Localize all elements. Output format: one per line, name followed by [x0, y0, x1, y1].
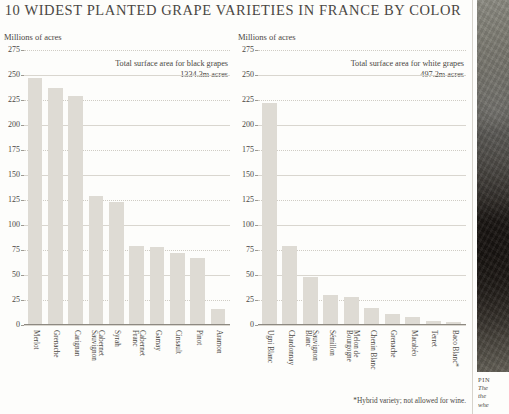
x-label-slot: SauvignonBlanc — [300, 328, 321, 392]
x-axis-labels-black: MerlotGrenacheCarignanCabernetSauvignonS… — [25, 328, 228, 392]
y-axis-tick — [21, 275, 24, 276]
y-axis-tick-label: 175 — [236, 145, 254, 155]
x-axis-category-label: CabernetSauvignon — [89, 330, 104, 361]
y-axis-tick-label: 225 — [236, 95, 254, 105]
x-axis-category-label: Sémillon — [327, 330, 334, 356]
x-axis-category-label: Ugni Blanc — [266, 330, 273, 363]
label-line-1: Cabernet — [138, 330, 146, 356]
y-axis-tick-label: 150 — [2, 170, 20, 180]
chart-panel-black-grapes: Millions of acres Total surface area for… — [2, 32, 230, 392]
bar — [28, 78, 43, 325]
x-label-slot: Baco Blanc* — [444, 328, 465, 392]
x-axis-category-label: Grenache — [52, 330, 59, 358]
plot-area-black: 0255075100125150175200225250275 — [2, 50, 230, 325]
page-title: 10 WIDEST PLANTED GRAPE VARIETIES IN FRA… — [0, 2, 466, 19]
bar — [211, 309, 226, 325]
x-label-slot: Sémillon — [321, 328, 342, 392]
y-axis-tick — [255, 125, 258, 126]
label-line-1: Grenache — [53, 330, 61, 358]
x-axis-category-label: Carignan — [72, 330, 79, 356]
bar-slot — [208, 50, 228, 325]
y-axis-tick — [255, 300, 258, 301]
y-axis-tick-label: 25 — [2, 295, 20, 305]
x-label-slot: Merlot — [25, 328, 45, 392]
y-axis-tick — [255, 175, 258, 176]
y-axis-tick-label: 125 — [2, 195, 20, 205]
y-axis-tick-label: 225 — [2, 95, 20, 105]
x-axis-category-label: Chenin Blanc — [368, 330, 375, 369]
x-axis-baseline-black — [24, 324, 230, 325]
bar — [109, 202, 124, 325]
bar-series-white — [259, 50, 464, 325]
x-label-slot: Grenache — [45, 328, 65, 392]
label-line-2: Sauvignon — [89, 330, 96, 361]
plot-area-white: 0255075100125150175200225250275 — [236, 50, 466, 325]
bar-slot — [187, 50, 207, 325]
caption-line-1: The — [478, 384, 509, 392]
bar-slot — [259, 50, 280, 325]
x-label-slot: Syrah — [106, 328, 126, 392]
x-axis-category-label: Merlot — [32, 330, 39, 350]
chart-panel-white-grapes: Millions of acres Total surface area for… — [236, 32, 466, 392]
bar-slot — [126, 50, 146, 325]
x-axis-category-label: Aramon — [214, 330, 221, 354]
y-axis-tick — [21, 300, 24, 301]
y-axis-unit-label-white: Millions of acres — [238, 32, 296, 42]
gridline — [258, 325, 466, 326]
label-line-1: Sémillon — [328, 330, 336, 356]
x-axis-category-label: Grenache — [389, 330, 396, 358]
bar-slot — [423, 50, 444, 325]
x-axis-category-label: SauvignonBlanc — [304, 330, 319, 361]
column-divider — [472, 0, 473, 414]
label-line-1: Gamay — [154, 330, 162, 351]
x-label-slot: Gamay — [147, 328, 167, 392]
y-axis-tick-label: 250 — [2, 70, 20, 80]
y-axis-tick — [21, 250, 24, 251]
bar-series-black — [25, 50, 228, 325]
x-axis-category-label: Macabéo — [409, 330, 416, 356]
y-axis-tick-label: 200 — [2, 120, 20, 130]
y-axis-tick-label: 75 — [2, 245, 20, 255]
y-axis-tick — [21, 50, 24, 51]
y-axis-tick — [21, 150, 24, 151]
bar-slot — [167, 50, 187, 325]
y-axis-tick-label: 175 — [2, 145, 20, 155]
x-axis-category-label: Cinsault — [174, 330, 181, 354]
bar-slot — [86, 50, 106, 325]
bar-slot — [147, 50, 167, 325]
y-axis-tick — [255, 325, 258, 326]
label-line-2: Blanc — [304, 330, 311, 361]
bar-slot — [341, 50, 362, 325]
label-line-1: Syrah — [113, 330, 121, 347]
x-label-slot: Melon deBourgogne — [341, 328, 362, 392]
x-label-slot: CabernetSauvignon — [86, 328, 106, 392]
y-axis-tick — [255, 100, 258, 101]
label-line-1: Merlot — [32, 330, 40, 350]
y-axis-tick-label: 0 — [2, 320, 20, 330]
x-label-slot: CabernetFranc — [126, 328, 146, 392]
x-axis-category-label: Syrah — [113, 330, 120, 347]
label-line-2: Bourgogne — [345, 330, 352, 362]
label-line-1: Melon de — [352, 330, 360, 357]
y-axis-tick-label: 275 — [2, 45, 20, 55]
x-label-slot: Chenin Blanc — [362, 328, 383, 392]
y-axis-tick-label: 275 — [236, 45, 254, 55]
pinot-noir-photo — [477, 0, 509, 372]
x-axis-category-label: Gamay — [154, 330, 161, 351]
label-line-1: Cabernet — [97, 330, 105, 356]
y-axis-tick — [255, 225, 258, 226]
x-label-slot: Ugni Blanc — [259, 328, 280, 392]
y-axis-tick — [21, 100, 24, 101]
x-axis-category-label: Terret — [430, 330, 437, 347]
bar — [129, 246, 144, 325]
bar-slot — [403, 50, 424, 325]
bar-slot — [45, 50, 65, 325]
bar-slot — [280, 50, 301, 325]
gridline — [24, 325, 230, 326]
bar-slot — [382, 50, 403, 325]
y-axis-tick — [21, 325, 24, 326]
y-axis-tick-label: 25 — [236, 295, 254, 305]
caption-title: PIN — [478, 376, 509, 384]
x-axis-category-label: Pinot — [194, 330, 201, 345]
x-label-slot: Carignan — [66, 328, 86, 392]
